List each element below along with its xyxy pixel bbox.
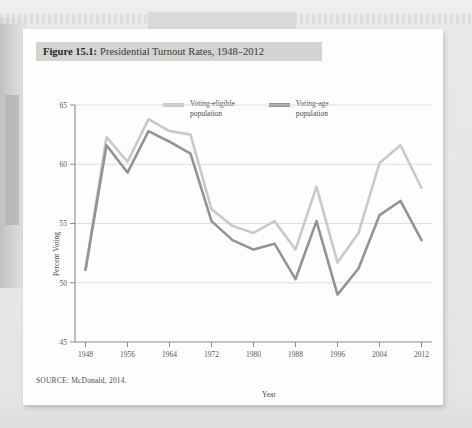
source-note: SOURCE: McDonald, 2014. — [36, 376, 127, 385]
x-axis-title: Year — [262, 390, 276, 399]
y-tick-label: 65 — [60, 101, 68, 110]
y-tick-label: 45 — [60, 338, 68, 347]
y-axis-title: Percent Voting — [52, 232, 61, 276]
x-tick-label: 1980 — [246, 350, 261, 359]
y-tick-label: 55 — [60, 219, 68, 228]
chart-svg: 4550556065 19481956196419721980198819962… — [23, 29, 443, 405]
x-tick-label: 1964 — [162, 350, 177, 359]
y-tick-label: 60 — [60, 160, 68, 169]
x-axis-ticks: 194819561964197219801988199620042012 — [78, 342, 429, 359]
figure-card: Figure 15.1: Presidential Turnout Rates,… — [23, 29, 443, 405]
y-tick-label: 50 — [60, 279, 68, 288]
chart-gridlines — [75, 105, 432, 283]
scan-spine-artifact — [5, 95, 19, 225]
series-line — [86, 131, 422, 295]
chart-series — [86, 119, 422, 294]
x-tick-label: 1972 — [204, 350, 219, 359]
y-axis-ticks: 4550556065 — [60, 101, 76, 347]
x-tick-label: 2004 — [372, 350, 387, 359]
line-chart: 4550556065 19481956196419721980198819962… — [23, 29, 443, 405]
x-tick-label: 1956 — [120, 350, 135, 359]
x-tick-label: 1996 — [330, 350, 345, 359]
series-line — [86, 119, 422, 269]
x-tick-label: 1988 — [288, 350, 303, 359]
x-tick-label: 1948 — [78, 350, 93, 359]
x-tick-label: 2012 — [414, 350, 429, 359]
